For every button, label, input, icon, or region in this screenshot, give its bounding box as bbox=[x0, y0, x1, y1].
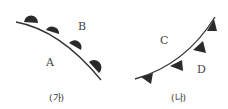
front-diagrams: B A (가) C D (나) bbox=[0, 0, 228, 109]
label-b: B bbox=[78, 20, 86, 33]
label-a: A bbox=[45, 56, 55, 69]
diagram-a: B A (가) bbox=[16, 15, 101, 103]
caption-b: (나) bbox=[171, 93, 186, 103]
warm-front-semicircle-icon bbox=[89, 60, 101, 73]
diagram-b: C D (나) bbox=[135, 17, 217, 103]
front-line-a bbox=[16, 22, 101, 80]
label-d: D bbox=[197, 63, 206, 76]
warm-front-semicircle-icon bbox=[24, 15, 38, 23]
label-c: C bbox=[160, 34, 168, 47]
caption-a: (가) bbox=[49, 93, 64, 103]
